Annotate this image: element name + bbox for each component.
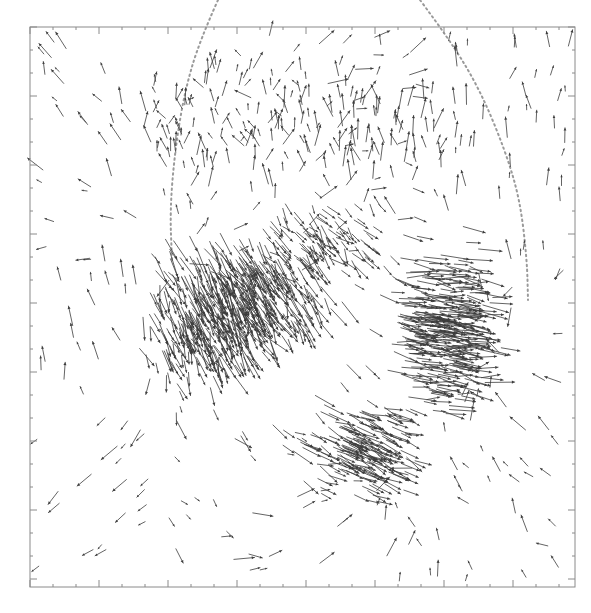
arrow-head bbox=[477, 352, 480, 355]
vector-arrow bbox=[418, 281, 439, 285]
vector-arrow bbox=[56, 32, 67, 49]
arrow-head bbox=[493, 316, 496, 319]
vector-arrow bbox=[348, 159, 351, 179]
arrow-head bbox=[473, 131, 476, 134]
vector-arrow bbox=[441, 411, 464, 420]
arrow-head bbox=[389, 503, 392, 506]
arrow-head bbox=[504, 117, 507, 120]
arrow-head bbox=[501, 313, 504, 316]
arrow-head bbox=[146, 112, 149, 115]
vector-arrow bbox=[362, 411, 380, 418]
arrow-head bbox=[428, 463, 431, 466]
arrow-head bbox=[63, 362, 66, 365]
arrow-head bbox=[283, 86, 286, 89]
vector-arrow bbox=[479, 249, 503, 251]
vector-arrow bbox=[388, 421, 408, 428]
arrow-head bbox=[479, 312, 482, 315]
vector-arrow bbox=[424, 257, 448, 260]
vector-arrow bbox=[404, 235, 423, 242]
arrow-head bbox=[390, 128, 393, 131]
vector-arrow bbox=[177, 421, 187, 439]
arrow-head bbox=[433, 119, 436, 121]
arrow-head bbox=[334, 61, 337, 64]
arrow-head bbox=[444, 354, 447, 357]
vector-arrow bbox=[301, 442, 320, 451]
arrow-head bbox=[564, 86, 566, 88]
arrow-head bbox=[254, 144, 257, 147]
vector-arrow bbox=[339, 130, 340, 150]
vector-arrow bbox=[506, 117, 508, 137]
arrow-head bbox=[339, 462, 342, 465]
arrow-head bbox=[498, 186, 501, 189]
vector-arrow bbox=[171, 259, 179, 280]
vector-arrow bbox=[220, 234, 231, 256]
arrow-head bbox=[209, 52, 212, 55]
arrow-head bbox=[477, 304, 480, 307]
arrow-head bbox=[344, 75, 346, 77]
vector-arrow bbox=[110, 124, 121, 140]
vector-arrow bbox=[304, 481, 318, 494]
arrow-head bbox=[495, 366, 498, 369]
arrow-head bbox=[434, 402, 437, 405]
vector-arrow bbox=[321, 287, 337, 306]
arrow-head bbox=[399, 572, 401, 574]
arrow-head bbox=[453, 380, 456, 383]
arrow-head bbox=[175, 83, 178, 86]
arrow-head bbox=[447, 262, 450, 265]
arrow-head bbox=[387, 497, 390, 500]
arrow-head bbox=[220, 385, 223, 388]
vector-arrow bbox=[263, 164, 269, 184]
vector-arrow bbox=[493, 297, 512, 298]
arrow-head bbox=[179, 302, 182, 305]
arrow-head bbox=[509, 172, 511, 174]
vector-arrow bbox=[51, 69, 64, 83]
vector-arrow bbox=[392, 427, 411, 435]
arrow-head bbox=[172, 330, 175, 333]
right-arc-curve bbox=[420, 0, 528, 300]
vector-arrow bbox=[388, 469, 408, 475]
vector-arrow bbox=[355, 266, 369, 279]
arrow-head bbox=[457, 377, 460, 380]
vector-arrow bbox=[205, 249, 221, 266]
arrow-head bbox=[570, 30, 573, 33]
vector-arrow bbox=[371, 85, 380, 104]
arrow-head bbox=[500, 378, 503, 381]
vector-arrow bbox=[401, 451, 418, 459]
arrow-head bbox=[553, 333, 555, 335]
arrow-head bbox=[455, 147, 457, 149]
arrow-head bbox=[441, 355, 443, 358]
arrow-head bbox=[430, 238, 433, 241]
arrow-head bbox=[476, 358, 479, 361]
vector-arrow bbox=[414, 263, 435, 270]
vector-arrow bbox=[424, 364, 448, 365]
vector-arrow bbox=[456, 175, 458, 194]
arrow-head bbox=[270, 128, 273, 131]
arrow-head bbox=[366, 150, 368, 152]
vector-arrow bbox=[365, 81, 376, 97]
arrow-head bbox=[150, 339, 153, 342]
arrow-head bbox=[490, 259, 493, 262]
arrow-head bbox=[206, 58, 209, 61]
vector-arrow bbox=[209, 167, 213, 186]
arrow-head bbox=[493, 341, 496, 344]
arrow-head bbox=[437, 560, 440, 563]
arrow-head bbox=[193, 276, 196, 279]
vector-arrow bbox=[476, 377, 503, 380]
arrow-head bbox=[268, 169, 271, 172]
arrow-head bbox=[352, 423, 355, 426]
arrow-head bbox=[428, 297, 431, 300]
arrow-head bbox=[494, 355, 497, 358]
arrow-head bbox=[455, 42, 457, 44]
arrow-head bbox=[270, 78, 272, 80]
vector-field-plot bbox=[0, 0, 591, 613]
vector-arrow bbox=[253, 513, 273, 516]
arrow-head bbox=[448, 377, 451, 380]
arrow-head bbox=[280, 118, 283, 121]
arrow-head bbox=[441, 275, 444, 278]
vector-arrow bbox=[320, 186, 337, 198]
vector-arrow bbox=[423, 79, 424, 99]
vector-arrow bbox=[455, 304, 481, 306]
vector-arrow bbox=[490, 303, 513, 304]
vector-arrow bbox=[387, 538, 397, 556]
arrow-head bbox=[371, 138, 374, 141]
